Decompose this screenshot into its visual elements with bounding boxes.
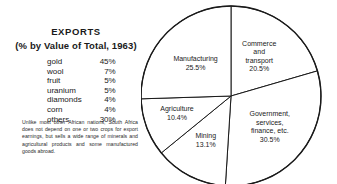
exports-infographic: EXPORTS (% by Value of Total, 1963) gold…	[0, 0, 337, 184]
commodity-name: corn	[47, 105, 92, 115]
pie-slice-value: 30.5%	[250, 136, 290, 145]
pie-slice-label-line: Commerce	[242, 40, 276, 49]
commodity-name: fruit	[47, 76, 92, 86]
pie-slice-label: Manufacturing25.5%	[173, 55, 217, 72]
table-row: corn4%	[47, 105, 116, 115]
commodity-name: diamonds	[47, 95, 92, 105]
pie-slice-value: 10.4%	[160, 114, 193, 123]
pie-slice-label-line: finance, etc.	[250, 127, 290, 136]
pie-slice-label-line: Government,	[250, 110, 290, 119]
table-row: fruit5%	[47, 76, 116, 86]
commodity-percent: 4%	[92, 105, 116, 115]
pie-slice-label: Agriculture10.4%	[160, 105, 193, 122]
pie-slice-label-line: Mining	[195, 132, 216, 141]
pie-slice[interactable]	[141, 6, 231, 99]
commodity-percent: 45%	[92, 57, 116, 67]
page-subtitle: (% by Value of Total, 1963)	[0, 39, 152, 52]
pie-slice-label-line: transport	[242, 57, 276, 66]
table-row: wool7%	[47, 67, 116, 77]
pie-chart-panel: Commerceandtransport20.5%Government,serv…	[141, 0, 337, 184]
pie-slice-label: Commerceandtransport20.5%	[242, 40, 276, 74]
commodity-percent: 7%	[92, 67, 116, 77]
pie-slice-value: 25.5%	[173, 64, 217, 73]
pie-slice-label: Mining13.1%	[195, 132, 216, 149]
pie-slice-label-line: Manufacturing	[173, 55, 217, 64]
commodity-name: uranium	[47, 86, 92, 96]
commodity-percent: 5%	[92, 86, 116, 96]
panel-title-block: EXPORTS (% by Value of Total, 1963)	[0, 26, 152, 52]
pie-slice-label-line: Agriculture	[160, 105, 193, 114]
table-row: diamonds4%	[47, 95, 116, 105]
page-title: EXPORTS	[0, 26, 152, 38]
pie-chart-svg	[141, 0, 337, 184]
explanatory-note: Unlike most other African nations, South…	[22, 119, 138, 155]
pie-slice-value: 20.5%	[242, 65, 276, 74]
pie-slice-value: 13.1%	[195, 141, 216, 150]
commodity-name: gold	[47, 57, 92, 67]
exports-text-panel: EXPORTS (% by Value of Total, 1963) gold…	[0, 0, 152, 184]
table-row: uranium5%	[47, 86, 116, 96]
commodity-percent: 4%	[92, 95, 116, 105]
pie-slice-label: Government,services,finance, etc.30.5%	[250, 110, 290, 144]
commodity-name: wool	[47, 67, 92, 77]
commodity-percent: 5%	[92, 76, 116, 86]
table-body: gold45%wool7%fruit5%uranium5%diamonds4%c…	[47, 57, 116, 124]
pie-slice-label-line: and	[242, 48, 276, 57]
table-row: gold45%	[47, 57, 116, 67]
pie-slice-label-line: services,	[250, 119, 290, 128]
exports-commodity-table: gold45%wool7%fruit5%uranium5%diamonds4%c…	[47, 57, 116, 124]
